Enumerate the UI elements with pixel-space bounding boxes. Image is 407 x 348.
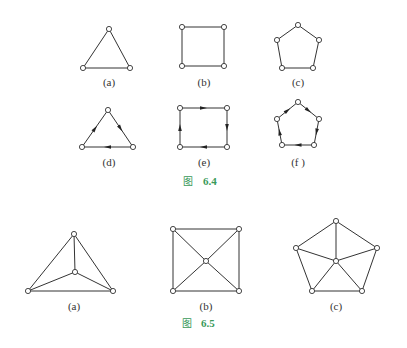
graph-edge [83, 29, 109, 68]
graph-vertex [80, 65, 85, 70]
caption-figure-number: 6.4 [203, 175, 217, 187]
graph-edge [74, 234, 75, 272]
graph-vertex [71, 231, 76, 236]
fig-6-5-subfigures: (a)(b)(c) [25, 218, 379, 313]
subfigure-label: (b) [200, 300, 213, 313]
graph-edge [277, 25, 298, 40]
figure-6-5: (a)(b)(c) 图 6.5 [25, 218, 379, 329]
graph-vertex [333, 258, 338, 263]
graph-vertex [295, 99, 300, 104]
graph-vertex [79, 144, 84, 149]
subfigure-label: (d) [103, 156, 116, 169]
graph-vertex [179, 63, 184, 68]
graph-edge [28, 234, 74, 291]
graph-vertex [236, 226, 241, 231]
arrow-icon [200, 145, 207, 149]
figure-caption: 图 6.4 [183, 175, 217, 187]
subfigure-graph: (e) [177, 105, 229, 169]
graph-vertex [311, 142, 316, 147]
subfigure-graph: (f ) [274, 99, 321, 169]
graph-edge [336, 221, 377, 248]
graph-vertex [25, 288, 30, 293]
graph-edge [313, 40, 319, 68]
caption-figure-char: 图 [183, 176, 193, 187]
subfigure-label: (a) [103, 76, 116, 89]
graph-vertex [309, 288, 314, 293]
subfigure-label: (c) [330, 300, 343, 313]
graph-vertex [274, 116, 279, 121]
graph-edge [336, 248, 377, 261]
fig-6-4-subfigures: (a)(b)(c)(d)(e)(f ) [79, 22, 321, 169]
graph-vertex [316, 116, 321, 121]
arrow-icon [225, 124, 229, 131]
graph-vertex [295, 22, 300, 27]
graph-vertex [221, 63, 226, 68]
graph-edge [362, 248, 377, 291]
subfigure-label: (a) [68, 300, 81, 313]
subfigure-graph: (d) [79, 107, 135, 169]
subfigure-label: (c) [292, 76, 305, 89]
graph-vertex [310, 65, 315, 70]
graph-vertex [333, 218, 338, 223]
graph-vertex [279, 65, 284, 70]
graph-vertex [105, 107, 110, 112]
graph-vertex [179, 24, 184, 29]
arrow-icon [178, 124, 182, 131]
graph-vertex [316, 37, 321, 42]
graph-vertex [224, 105, 229, 110]
graph-vertex [374, 245, 379, 250]
subfigure-graph: (c) [274, 22, 321, 89]
subfigure-graph: (b) [170, 226, 241, 313]
figure-6-4: (a)(b)(c)(d)(e)(f ) 图 6.4 [79, 22, 321, 187]
graph-vertex [224, 144, 229, 149]
graph-edge [206, 261, 239, 291]
figure-canvas: (a)(b)(c)(d)(e)(f ) 图 6.4 (a)(b)(c) 图 6.… [0, 0, 407, 348]
graph-vertex [127, 65, 132, 70]
caption-figure-char: 图 [182, 318, 192, 329]
graph-edge [296, 248, 336, 261]
graph-edge [296, 248, 312, 291]
graph-edge [173, 229, 206, 261]
subfigure-graph: (c) [293, 218, 379, 313]
graph-edge [206, 229, 239, 261]
graph-edge [296, 221, 336, 248]
arrow-icon [104, 145, 111, 149]
graph-edge [173, 261, 206, 291]
graph-edge [109, 29, 130, 68]
graph-vertex [130, 144, 135, 149]
graph-edge [75, 272, 113, 291]
graph-vertex [203, 258, 208, 263]
subfigure-label: (e) [198, 156, 211, 169]
graph-vertex [170, 226, 175, 231]
graph-vertex [110, 288, 115, 293]
graph-vertex [236, 288, 241, 293]
graph-edge [312, 261, 336, 291]
graph-edge [277, 40, 282, 68]
graph-vertex [274, 37, 279, 42]
arrow-icon [200, 106, 207, 110]
arrow-icon [295, 143, 302, 147]
subfigure-graph: (b) [179, 24, 226, 89]
graph-vertex [177, 105, 182, 110]
graph-edge [336, 261, 362, 291]
graph-vertex [106, 26, 111, 31]
subfigure-label: (b) [198, 76, 211, 89]
graph-vertex [72, 269, 77, 274]
subfigure-graph: (a) [80, 26, 132, 89]
subfigure-label: (f ) [291, 156, 305, 169]
graph-edge [74, 234, 113, 291]
graph-vertex [293, 245, 298, 250]
graph-vertex [279, 142, 284, 147]
graph-vertex [221, 24, 226, 29]
graph-edge [298, 25, 319, 40]
subfigure-graph: (a) [25, 231, 115, 313]
graph-vertex [359, 288, 364, 293]
graph-vertex [170, 288, 175, 293]
graph-vertex [177, 144, 182, 149]
caption-figure-number: 6.5 [201, 317, 215, 329]
figure-caption: 图 6.5 [182, 317, 215, 329]
